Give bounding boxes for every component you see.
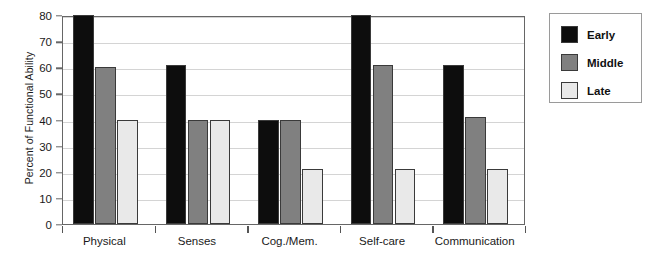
y-tick-mark — [56, 68, 62, 69]
y-tick-label: 60 — [39, 62, 52, 74]
y-tick-mark — [56, 120, 62, 121]
bar — [166, 65, 187, 224]
y-tick-mark — [56, 15, 62, 16]
x-tick-mark — [155, 226, 156, 233]
y-tick-label: 80 — [39, 10, 52, 22]
y-tick-label: 30 — [39, 141, 52, 153]
y-axis-tick-labels: 01020304050607080 — [24, 16, 56, 225]
bar — [487, 169, 508, 224]
x-tick-mark — [247, 226, 248, 233]
y-tick-mark — [56, 224, 62, 225]
y-tick-label: 10 — [39, 193, 52, 205]
legend-label: Early — [587, 29, 615, 41]
bar — [280, 120, 301, 225]
y-tick-label: 20 — [39, 167, 52, 179]
x-tick-mark — [432, 226, 433, 233]
x-tick-mark — [525, 226, 526, 233]
y-tick-mark — [56, 41, 62, 42]
y-tick-label: 40 — [39, 115, 52, 127]
legend-label: Late — [587, 85, 611, 97]
bar — [373, 65, 394, 224]
x-tick-mark — [62, 226, 63, 233]
legend-item[interactable]: Early — [561, 26, 615, 43]
legend-swatch-icon — [561, 26, 578, 43]
bar — [95, 67, 116, 224]
bar — [395, 169, 416, 224]
x-axis-label: Senses — [178, 235, 216, 247]
bar — [258, 120, 279, 225]
y-tick-mark — [56, 94, 62, 95]
bar-group — [248, 17, 341, 224]
x-axis-label: Physical — [83, 235, 126, 247]
y-tick-label: 50 — [39, 88, 52, 100]
plot-area — [62, 16, 525, 225]
bar — [210, 120, 231, 225]
chart-legend: EarlyMiddleLate — [549, 13, 642, 103]
bar — [73, 15, 94, 224]
y-tick-label: 0 — [46, 219, 52, 231]
y-tick-mark — [56, 172, 62, 173]
bar — [351, 15, 372, 224]
legend-swatch-icon — [561, 54, 578, 71]
bar — [443, 65, 464, 224]
x-axis-label: Communication — [435, 235, 515, 247]
bar-group — [341, 17, 434, 224]
bar — [117, 120, 138, 225]
legend-item[interactable]: Middle — [561, 54, 623, 71]
x-tick-mark — [340, 226, 341, 233]
bars-layer — [63, 17, 524, 224]
y-tick-label: 70 — [39, 36, 52, 48]
legend-item[interactable]: Late — [561, 82, 611, 99]
legend-label: Middle — [587, 57, 623, 69]
y-tick-mark — [56, 146, 62, 147]
bar — [302, 169, 323, 224]
y-tick-mark — [56, 198, 62, 199]
bar-group — [433, 17, 526, 224]
bar — [188, 120, 209, 225]
legend-swatch-icon — [561, 82, 578, 99]
bar-group — [156, 17, 249, 224]
x-axis-label: Self-care — [359, 235, 405, 247]
x-axis-label: Cog./Mem. — [261, 235, 317, 247]
bar-chart: Percent of Functional Ability 0102030405… — [0, 0, 646, 258]
bar-group — [63, 17, 156, 224]
bar — [465, 117, 486, 224]
